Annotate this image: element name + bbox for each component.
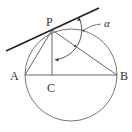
segment-PB (52, 30, 117, 75)
label-A: A (10, 69, 19, 83)
angle-arc (55, 18, 82, 60)
label-C: C (47, 81, 55, 95)
alpha-leader (84, 24, 101, 30)
label-B: B (120, 69, 128, 83)
alpha-leader-dot (83, 30, 85, 32)
arc-marker (74, 45, 76, 47)
label-P: P (46, 15, 53, 29)
label-alpha: α (104, 17, 110, 29)
arrowhead-icon (55, 58, 59, 62)
geometry-diagram: P A B C α (0, 0, 132, 132)
